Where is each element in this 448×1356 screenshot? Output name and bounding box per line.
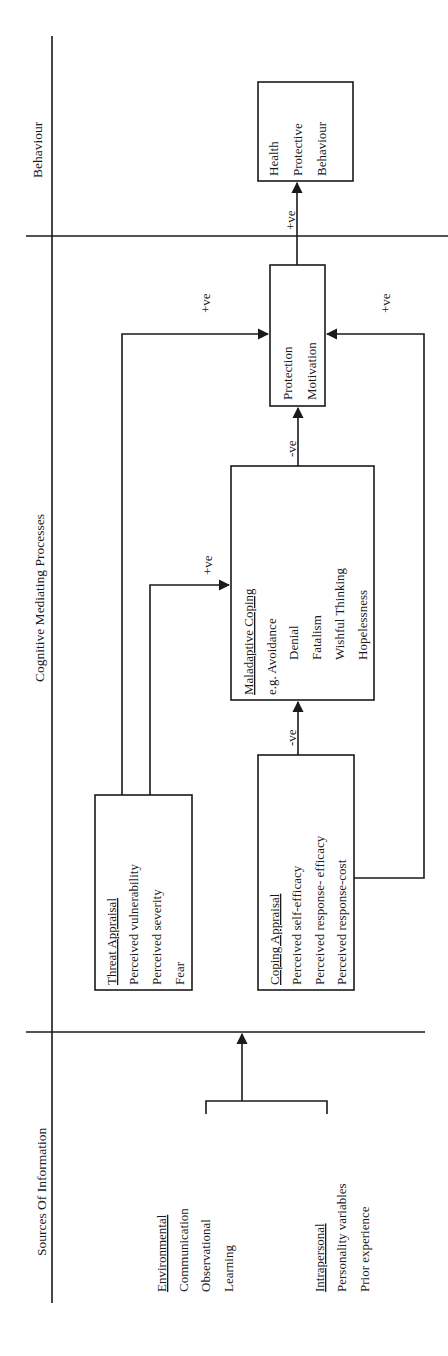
column-header-cognitive: Cognitive Mediating Processes: [32, 514, 47, 682]
sources-bracket: [206, 1101, 327, 1114]
threat-appraisal-item: Perceived vulnerability: [126, 864, 141, 985]
threat-appraisal-item: Perceived severity: [149, 889, 164, 985]
protection-motivation-diagram: Behaviour Cognitive Mediating Processes …: [0, 0, 448, 1356]
sources-environmental: Environmental Communication Observationa…: [154, 1208, 236, 1292]
threat-appraisal-heading: Threat Appraisal: [104, 898, 119, 985]
edge-label-threat-to-pm: +ve: [198, 293, 213, 313]
environmental-heading: Environmental: [154, 1214, 169, 1292]
intrapersonal-item: Prior experience: [357, 1206, 372, 1292]
coping-appraisal-item: Perceived self-efficacy: [289, 865, 304, 985]
health-behaviour-line: Protective: [290, 123, 305, 176]
column-header-behaviour: Behaviour: [30, 121, 45, 178]
coping-appraisal-item: Perceived response-cost: [334, 859, 349, 985]
column-header-sources: Sources Of Information: [34, 1128, 49, 1256]
edge-label-coping-to-pm: +ve: [378, 293, 393, 313]
edge-label-maladaptive-to-pm: -ve: [284, 440, 299, 457]
environmental-item: Learning: [221, 1245, 236, 1292]
maladaptive-coping-item: e.g. Avoidance: [264, 618, 279, 695]
edge-label-pm-to-behaviour: +ve: [283, 210, 298, 230]
maladaptive-coping-item: Denial: [286, 625, 301, 660]
intrapersonal-item: Personality variables: [334, 1183, 349, 1292]
maladaptive-coping-heading: Maladaptive Coping: [241, 588, 256, 695]
sources-intrapersonal: Intrapersonal Personality variables Prio…: [312, 1183, 372, 1292]
threat-appraisal-item: Fear: [172, 961, 187, 985]
protection-motivation-line: Motivation: [304, 342, 319, 400]
protection-motivation-line: Protection: [280, 346, 295, 400]
maladaptive-coping-item: Wishful Thinking: [332, 567, 347, 660]
environmental-item: Communication: [176, 1208, 191, 1292]
maladaptive-coping-item: Fatalism: [309, 615, 324, 660]
maladaptive-coping-item: Hopelessness: [355, 590, 370, 660]
environmental-item: Observational: [198, 1219, 213, 1292]
health-behaviour-line: Health: [266, 141, 281, 176]
edge-threat-to-maladaptive: [150, 585, 229, 795]
edge-label-coping-to-maladaptive: -ve: [284, 729, 299, 746]
coping-appraisal-heading: Coping Appraisal: [267, 893, 282, 985]
edge-label-threat-to-maladaptive: +ve: [200, 555, 215, 575]
coping-appraisal-item: Perceived response- efficacy: [312, 835, 327, 985]
health-behaviour-line: Behaviour: [314, 121, 329, 176]
intrapersonal-heading: Intrapersonal: [312, 1223, 327, 1292]
